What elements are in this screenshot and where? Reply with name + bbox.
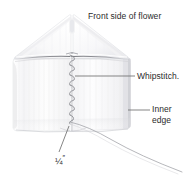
inch-mark-icon: ″ [63, 154, 65, 161]
measurement-value: ¼ [55, 156, 63, 166]
inner-edge-label-line2: edge [152, 115, 186, 126]
inner-edge-label: Inner edge [152, 104, 186, 125]
inner-edge-label-line1: Inner [152, 104, 172, 114]
diagram-illustration [0, 0, 189, 179]
measurement-label: ¼″ [55, 153, 65, 167]
title-label: Front side of flower [88, 11, 161, 22]
whipstitch-label: Whipstitch. [137, 71, 179, 82]
flower-whipstitch-diagram: Front side of flower Whipstitch. Inner e… [0, 0, 189, 179]
